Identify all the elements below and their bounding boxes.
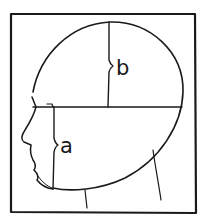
neck-back-line (153, 150, 161, 200)
label-b: b (116, 56, 129, 80)
measure-line-b (108, 22, 113, 107)
neck-front-line (85, 190, 87, 208)
label-a: a (60, 134, 73, 158)
head-proportion-diagram: b a (0, 0, 207, 221)
measure-line-a (53, 107, 58, 189)
frame-box (11, 14, 196, 213)
face-profile (22, 97, 53, 189)
